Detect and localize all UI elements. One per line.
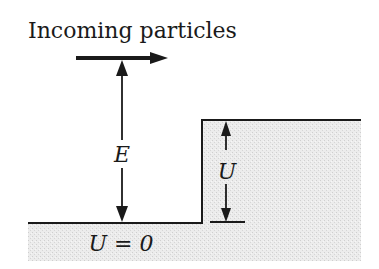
energy-arrow-icon [116,60,128,222]
region-fill [28,120,361,261]
ground-label: U = 0 [89,231,154,256]
potential-step-diagram: Incoming particles E U U = 0 [0,0,379,269]
energy-label: E [113,142,130,167]
title-label: Incoming particles [28,18,237,43]
step-label: U [218,159,238,184]
